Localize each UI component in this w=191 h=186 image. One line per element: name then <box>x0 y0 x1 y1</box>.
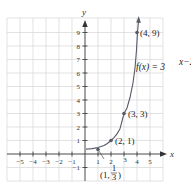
label-point-3-3: (3, 3) <box>128 109 148 119</box>
svg-text:1: 1 <box>77 137 81 145</box>
svg-text:4: 4 <box>77 97 81 105</box>
svg-text:(1,: (1, <box>100 170 110 180</box>
exponential-function-graph: −5 −4 −3 −2 −1 1 2 3 4 5 9 8 7 6 5 4 3 2… <box>0 0 191 186</box>
label-point-2-1: (2, 1) <box>115 136 135 146</box>
y-tick-labels: 9 8 7 6 5 4 3 2 1 −1 <box>73 29 81 172</box>
y-axis-arrow-icon <box>82 20 87 27</box>
point-2-1 <box>109 139 113 143</box>
svg-text:−1: −1 <box>73 164 81 172</box>
svg-text:x−2: x−2 <box>178 57 191 67</box>
svg-text:5: 5 <box>148 158 152 166</box>
svg-text:3: 3 <box>123 156 127 164</box>
function-curve-line <box>86 21 139 149</box>
label-point-4-9: (4, 9) <box>140 28 160 38</box>
svg-text:−2: −2 <box>55 158 63 166</box>
y-axis-label: y <box>81 7 86 17</box>
point-4-9 <box>135 31 139 35</box>
svg-text:3: 3 <box>77 110 81 118</box>
svg-text:2: 2 <box>77 124 81 132</box>
svg-text:5: 5 <box>77 83 81 91</box>
svg-text:8: 8 <box>77 43 81 51</box>
x-axis-arrow-icon <box>160 151 167 156</box>
svg-text:7: 7 <box>77 56 81 64</box>
x-axis-label: x <box>169 149 174 159</box>
svg-text:1: 1 <box>96 158 100 166</box>
svg-text:3: 3 <box>112 172 117 182</box>
leader-line <box>99 151 104 159</box>
x-tick-labels: −5 −4 −3 −2 −1 1 2 3 4 5 <box>16 156 152 166</box>
svg-text:4: 4 <box>135 158 139 166</box>
point-1-third <box>96 148 100 152</box>
point-3-3 <box>122 112 126 116</box>
svg-text:f(x) = 3: f(x) = 3 <box>136 62 165 73</box>
svg-text:): ) <box>118 170 121 180</box>
svg-text:−4: −4 <box>29 158 37 166</box>
svg-text:9: 9 <box>77 29 81 37</box>
svg-text:−3: −3 <box>42 158 50 166</box>
svg-text:6: 6 <box>77 70 81 78</box>
svg-text:−5: −5 <box>16 158 24 166</box>
